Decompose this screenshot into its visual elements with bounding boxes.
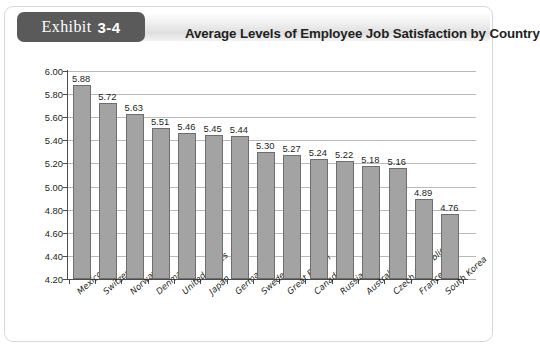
gridline bbox=[68, 94, 476, 95]
y-axis-tick-label: 6.00 bbox=[27, 66, 63, 77]
y-axis-tick-mark bbox=[63, 140, 67, 141]
bar bbox=[205, 135, 223, 279]
y-axis-line bbox=[67, 70, 68, 280]
y-axis-tick-mark bbox=[63, 233, 67, 234]
y-axis-tick-label: 5.40 bbox=[27, 135, 63, 146]
bar bbox=[336, 161, 354, 279]
bar-value-label: 5.44 bbox=[230, 124, 248, 135]
y-axis-tick-label: 5.00 bbox=[27, 181, 63, 192]
bar bbox=[178, 133, 196, 279]
y-axis-tick-label: 4.80 bbox=[27, 204, 63, 215]
bar-value-label: 5.16 bbox=[388, 156, 406, 167]
y-axis-tick-mark bbox=[63, 279, 67, 280]
bar-value-label: 5.63 bbox=[125, 102, 143, 113]
bar-value-label: 5.88 bbox=[72, 73, 90, 84]
bar bbox=[310, 159, 328, 279]
bar-value-label: 4.76 bbox=[440, 202, 458, 213]
y-axis-tick-mark bbox=[63, 163, 67, 164]
y-axis-tick-mark bbox=[63, 210, 67, 211]
gridline bbox=[68, 71, 476, 72]
x-axis-tick-mark bbox=[69, 280, 70, 284]
exhibit-frame: Average Levels of Employee Job Satisfact… bbox=[4, 6, 493, 342]
bar bbox=[257, 152, 275, 279]
bar-value-label: 5.45 bbox=[204, 123, 222, 134]
y-axis-tick-mark bbox=[63, 117, 67, 118]
bar-chart: 6.005.805.605.405.205.004.804.604.404.20… bbox=[5, 7, 506, 352]
bar-value-label: 5.24 bbox=[309, 147, 327, 158]
bar bbox=[283, 155, 301, 279]
bar bbox=[389, 168, 407, 279]
bar-value-label: 4.89 bbox=[414, 187, 432, 198]
bar-value-label: 5.46 bbox=[177, 121, 195, 132]
bar bbox=[73, 85, 91, 279]
y-axis-tick-label: 4.40 bbox=[27, 250, 63, 261]
bar bbox=[362, 166, 380, 279]
y-axis-tick-mark bbox=[63, 256, 67, 257]
y-axis-tick-label: 4.60 bbox=[27, 227, 63, 238]
y-axis-tick-label: 5.60 bbox=[27, 112, 63, 123]
y-axis-tick-mark bbox=[63, 94, 67, 95]
y-axis-tick-label: 4.20 bbox=[27, 274, 63, 285]
bar-value-label: 5.22 bbox=[335, 149, 353, 160]
y-axis-tick-label: 5.80 bbox=[27, 89, 63, 100]
y-axis-tick-label: 5.20 bbox=[27, 158, 63, 169]
bar-value-label: 5.27 bbox=[282, 143, 300, 154]
bar-value-label: 5.51 bbox=[151, 116, 169, 127]
y-axis-tick-labels: 6.005.805.605.405.205.004.804.604.404.20 bbox=[21, 7, 63, 352]
bar-value-label: 5.72 bbox=[98, 91, 116, 102]
bar-value-label: 5.30 bbox=[256, 140, 274, 151]
y-axis-tick-mark bbox=[63, 187, 67, 188]
bar bbox=[126, 114, 144, 279]
y-axis-tick-mark bbox=[63, 71, 67, 72]
bar bbox=[441, 214, 459, 279]
bar bbox=[415, 199, 433, 279]
bar bbox=[231, 136, 249, 279]
bar-value-label: 5.18 bbox=[361, 154, 379, 165]
bar bbox=[152, 128, 170, 279]
bar bbox=[99, 103, 117, 279]
